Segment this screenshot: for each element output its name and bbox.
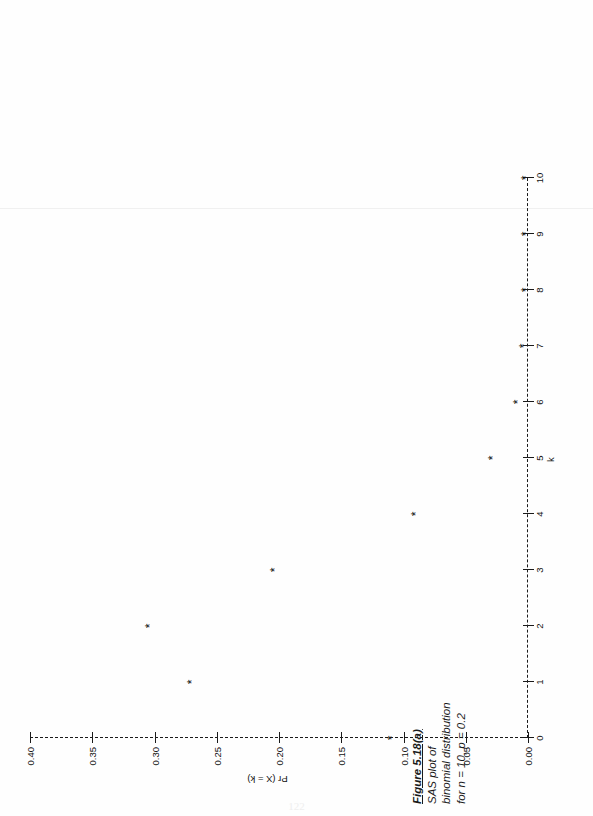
y-tick-label: 0.40 [25, 747, 36, 766]
x-tick-label: 4 [534, 511, 545, 516]
figure-caption-title: Figure 5.18(a) [410, 574, 425, 804]
x-tick-mark [523, 457, 534, 458]
data-point: * [522, 342, 531, 351]
y-tick-label: 0.30 [149, 747, 160, 766]
y-tick-mark [341, 732, 342, 743]
x-tick-label: 1 [534, 679, 545, 684]
y-tick-mark [217, 732, 218, 743]
rotated-figure-container: 0.000.050.100.150.200.250.300.350.40 012… [0, 0, 593, 816]
data-point: * [390, 734, 399, 743]
figure-caption-line-2: binomial distribution [439, 574, 454, 804]
x-tick-mark [523, 681, 534, 682]
y-tick-mark [30, 732, 31, 743]
figure-caption: Figure 5.18(a) SAS plot of binomial dist… [410, 574, 468, 804]
x-tick-label: 6 [534, 399, 545, 404]
data-point: * [491, 454, 500, 463]
y-tick-mark [279, 732, 280, 743]
x-tick-label: 5 [534, 455, 545, 460]
x-tick-mark [523, 737, 534, 738]
x-tick-label: 10 [534, 173, 545, 184]
x-tick-mark [523, 625, 534, 626]
data-point: * [524, 230, 533, 239]
x-tick-mark [523, 569, 534, 570]
data-point: * [524, 174, 533, 183]
y-tick-mark [155, 732, 156, 743]
x-tick-label: 7 [534, 343, 545, 348]
y-tick-mark [404, 732, 405, 743]
x-tick-label: 9 [534, 231, 545, 236]
x-axis-title: k [545, 457, 556, 462]
data-point: * [524, 286, 533, 295]
x-tick-mark [523, 513, 534, 514]
data-point: * [516, 398, 525, 407]
y-axis-title: Pr (X = k) [247, 774, 287, 785]
x-tick-label: 2 [534, 623, 545, 628]
figure-caption-line-1: SAS plot of [425, 574, 440, 804]
x-axis-line [527, 178, 528, 738]
y-tick-label: 0.25 [211, 747, 222, 766]
figure-caption-line-3: for n = 10, p = 0.2 [454, 574, 469, 804]
y-tick-label: 0.15 [336, 747, 347, 766]
data-point: * [414, 510, 423, 519]
page-number: 122 [288, 800, 305, 812]
x-tick-label: 3 [534, 567, 545, 572]
y-tick-label: 0.00 [523, 747, 534, 766]
x-tick-label: 0 [534, 735, 545, 740]
y-tick-label: 0.20 [274, 747, 285, 766]
plot-area: 0.000.050.100.150.200.250.300.350.40 012… [30, 54, 552, 738]
y-tick-label: 0.35 [87, 747, 98, 766]
data-point: * [148, 622, 157, 631]
y-tick-mark [92, 732, 93, 743]
data-point: * [190, 678, 199, 687]
y-tick-label: 0.10 [398, 747, 409, 766]
data-point: * [273, 566, 282, 575]
x-tick-label: 8 [534, 287, 545, 292]
